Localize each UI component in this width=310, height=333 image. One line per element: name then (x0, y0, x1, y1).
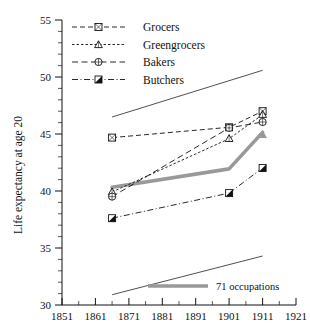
y-tick-label-40: 40 (40, 185, 52, 197)
upper-reference-line (112, 70, 263, 117)
y-tick-label-30: 30 (40, 299, 52, 311)
legend-label-bakers: Bakers (143, 56, 175, 68)
legend-item-bakers: Bakers (72, 56, 175, 68)
marker-half-filled-square (109, 165, 267, 222)
legend-label-grocers: Grocers (143, 21, 180, 33)
legend-label-greengrocers: Greengrocers (143, 39, 205, 52)
legend-item-greengrocers: Greengrocers (72, 39, 205, 52)
legend-item-butchers: Butchers (72, 74, 184, 86)
x-axis (62, 298, 296, 305)
x-tick-label-1851: 1851 (51, 310, 73, 322)
x-tick-label-1881: 1881 (151, 310, 173, 322)
y-tick-label-50: 50 (40, 71, 52, 83)
x-tick-label-1871: 1871 (118, 310, 140, 322)
legend-item-grocers: Grocers (72, 21, 180, 33)
x-tick-label-1911: 1911 (252, 310, 274, 322)
chart-legend: Grocers Greengrocers Bakers Butchers 71 … (72, 21, 279, 292)
series-butchers (109, 165, 267, 222)
line-chart: 30 35 40 45 50 55 1851 1861 1871 1881 18… (0, 0, 310, 333)
x-tick-label-1891: 1891 (185, 310, 207, 322)
x-tick-label-1921: 1921 (285, 310, 307, 322)
x-tick-label-1901: 1901 (218, 310, 240, 322)
y-axis-title: Life expectancy at age 20 (12, 116, 25, 234)
chart-container: 30 35 40 45 50 55 1851 1861 1871 1881 18… (0, 0, 310, 333)
y-axis (55, 20, 62, 305)
x-tick-label-1861: 1861 (84, 310, 106, 322)
y-tick-label-55: 55 (40, 14, 52, 26)
legend-item-71-occupations: 71 occupations (148, 281, 279, 292)
series-grocers (109, 108, 267, 141)
legend-label-71-occupations: 71 occupations (216, 281, 279, 292)
legend-label-butchers: Butchers (143, 74, 184, 86)
y-tick-label-45: 45 (40, 128, 52, 140)
y-tick-label-35: 35 (40, 242, 52, 254)
series-71-occupations (112, 130, 267, 187)
